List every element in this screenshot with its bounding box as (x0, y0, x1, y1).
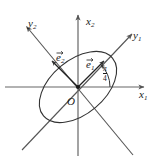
vector-label-e1-sub: 1 (91, 64, 95, 72)
vector-label-e1: e1 (86, 59, 94, 70)
origin-label: O (67, 96, 75, 107)
axis-label-y2-sub: 2 (33, 23, 37, 31)
axis-label-x2: x2 (86, 16, 94, 27)
vector-label-e2-sub: 2 (61, 57, 65, 65)
origin-point (76, 85, 80, 89)
angle-label-denominator: 4 (103, 75, 107, 83)
vector-arrow-accent-icon (86, 57, 93, 62)
axis-line-y1 (22, 34, 132, 150)
origin-label-text: O (67, 95, 75, 107)
angle-label-numerator: π (103, 65, 107, 73)
axis-label-y1: y1 (133, 30, 141, 41)
axis-label-y2: y2 (28, 18, 36, 29)
diagram-canvas (0, 0, 157, 164)
vector-label-e2: e2 (56, 52, 64, 63)
vector-diagram-figure: x2 x1 y1 y2 e1 e2 O (0, 0, 157, 164)
axis-label-x2-sub: 2 (91, 21, 95, 29)
vector-e2 (52, 61, 78, 87)
angle-label: π 4 (103, 65, 107, 83)
vector-arrow-accent-icon-2 (56, 50, 63, 55)
axis-label-x1-sub: 1 (144, 94, 148, 102)
axis-label-x1: x1 (139, 89, 147, 100)
axis-label-y1-sub: 1 (138, 35, 142, 43)
